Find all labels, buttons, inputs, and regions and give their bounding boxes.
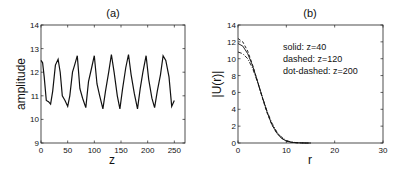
y-tick-label: 10 — [227, 55, 236, 64]
x-tick-label: 200 — [141, 146, 155, 155]
panel-a-x-ticks: 050100150200250 — [39, 25, 182, 155]
y-tick-label: 12 — [30, 68, 39, 77]
y-tick-label: 11 — [31, 92, 40, 101]
x-tick-label: 0 — [39, 146, 44, 155]
panel-a-y-label: amplitude — [14, 58, 28, 110]
x-tick-label: 10 — [282, 146, 291, 155]
legend-dot-dashed: dot-dashed: z=200 — [283, 66, 358, 76]
x-tick-label: 150 — [114, 146, 128, 155]
amplitude-line — [41, 55, 174, 109]
legend-dashed: dashed: z=120 — [283, 54, 342, 64]
panel-b-x-label: r — [308, 153, 312, 167]
x-tick-label: 30 — [379, 146, 388, 155]
panel-b-y-label: |U(r)| — [210, 71, 224, 98]
y-tick-label: 14 — [30, 21, 39, 30]
panel-b-y-ticks: 02468101214 — [227, 21, 383, 148]
y-tick-label: 10 — [30, 115, 39, 124]
panel-a-x-label: z — [109, 153, 115, 167]
y-tick-label: 13 — [30, 45, 39, 54]
y-tick-label: 12 — [227, 38, 236, 47]
x-tick-label: 100 — [88, 146, 102, 155]
panel-a-axes-box — [41, 25, 185, 143]
panel-a: (a) 91011121314 050100150200250 z amplit… — [14, 7, 185, 167]
x-tick-label: 0 — [236, 146, 241, 155]
x-tick-label: 250 — [168, 146, 182, 155]
y-tick-label: 8 — [232, 72, 237, 81]
figure: (a) 91011121314 050100150200250 z amplit… — [0, 0, 403, 174]
x-tick-label: 50 — [63, 146, 72, 155]
y-tick-label: 14 — [227, 21, 236, 30]
y-tick-label: 2 — [232, 122, 237, 131]
panel-b: (b) 02468101214 0102030 solid: z=40 dash… — [210, 7, 388, 167]
y-tick-label: 4 — [232, 105, 237, 114]
panel-a-title: (a) — [106, 7, 119, 19]
y-tick-label: 6 — [232, 88, 237, 97]
panel-b-title: (b) — [303, 7, 316, 19]
legend-solid: solid: z=40 — [283, 42, 326, 52]
x-tick-label: 20 — [330, 146, 339, 155]
